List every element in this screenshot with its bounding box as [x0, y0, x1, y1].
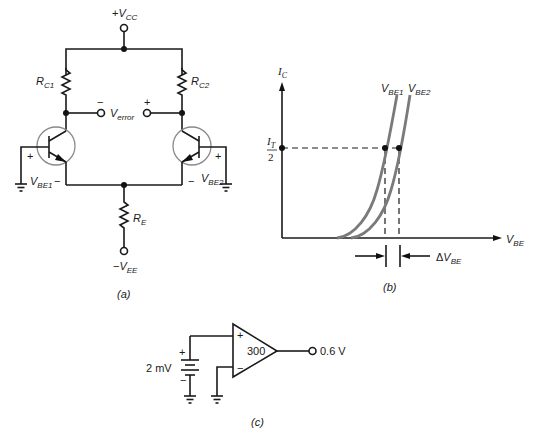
x-axis-label: VBE [506, 233, 525, 248]
re-resistor [120, 185, 128, 247]
curve-vbe2-label: VBE2 [408, 82, 431, 97]
source-minus-sign: − [180, 374, 186, 386]
y-axis-arrow-icon [279, 82, 285, 91]
gain-label: 300 [247, 345, 265, 357]
top-rail [66, 49, 182, 75]
vee-label: −VEE [113, 260, 138, 275]
verror-plus-terminal [144, 110, 151, 117]
level-denominator: 2 [268, 151, 274, 163]
verror-label: Verror [110, 107, 135, 122]
arrow-left-icon [401, 253, 410, 259]
vee-terminal [121, 248, 128, 255]
vbe1-point [382, 145, 388, 151]
graph-b: IC VBE IT 2 VBE1 VBE2 ΔVBE (b) [266, 65, 525, 293]
rc1-label: RC1 [36, 75, 54, 90]
rc1-resistor [62, 68, 70, 112]
y-axis-label: IC [277, 65, 288, 80]
verror-plus-sign: + [144, 96, 150, 108]
circuit-a: +VCC RC1 RC2 − + Verror [15, 7, 232, 300]
x-axis-arrow-icon [493, 235, 502, 241]
re-label: RE [133, 212, 147, 227]
verror-minus-terminal [98, 110, 105, 117]
ground-icon [184, 396, 196, 403]
output-terminal [309, 348, 316, 355]
inverting-input-wire [217, 367, 233, 396]
level-numerator: IT [266, 135, 276, 150]
ground-icon [211, 396, 223, 403]
caption-b: (b) [383, 281, 397, 293]
ground-icon [15, 184, 27, 191]
transistor-q2 [173, 113, 226, 185]
differential-amplifier-figure: +VCC RC1 RC2 − + Verror [0, 0, 534, 440]
rc2-resistor [178, 68, 186, 112]
source-plus-sign: + [179, 346, 185, 358]
inverting-input-sign: − [237, 362, 243, 374]
noninverting-input-sign: + [237, 329, 243, 341]
level-dot [279, 145, 285, 151]
circuit-c: + − 2 mV + − 300 0.6 V (c) [146, 324, 346, 428]
rc2-label: RC2 [191, 75, 210, 90]
vbe1-label: VBE1 [30, 175, 52, 190]
source-voltage-label: 2 mV [146, 362, 172, 374]
vbe2-label: VBE2 [201, 172, 224, 187]
caption-a: (a) [117, 288, 131, 300]
vbe2-minus-sign: − [188, 175, 194, 187]
vcc-terminal [121, 25, 128, 32]
output-voltage-label: 0.6 V [320, 345, 346, 357]
vcc-label: +VCC [112, 7, 138, 22]
vbe2-plus-sign: + [215, 150, 221, 162]
vbe2-point [396, 145, 402, 151]
curve-vbe1-label: VBE1 [381, 82, 403, 97]
caption-c: (c) [251, 416, 264, 428]
curve-vbe2 [351, 95, 410, 238]
arrow-right-icon [376, 253, 385, 259]
vbe1-plus-sign: + [27, 150, 33, 162]
vbe1-minus-sign: − [54, 175, 60, 187]
verror-minus-sign: − [97, 96, 103, 108]
delta-vbe-label: ΔVBE [436, 251, 462, 266]
curve-vbe1 [337, 95, 397, 238]
